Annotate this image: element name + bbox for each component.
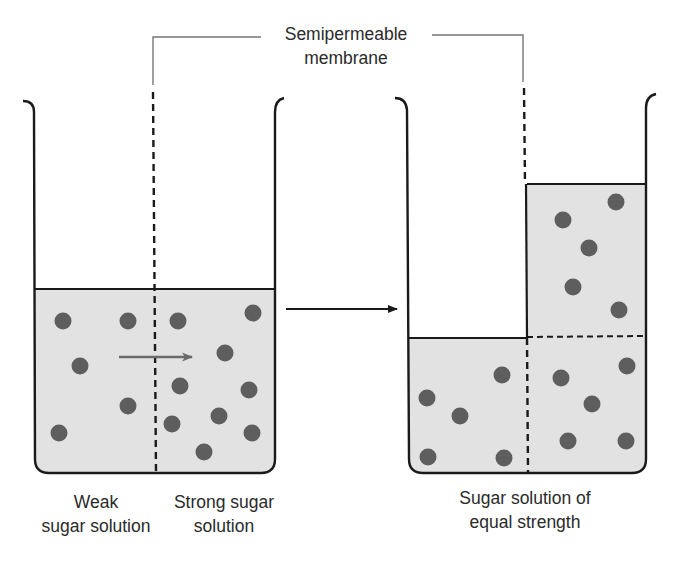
sugar-particle <box>211 408 228 425</box>
membrane-leader-left <box>153 37 261 85</box>
sugar-particle <box>452 408 469 425</box>
sugar-particle <box>217 345 234 362</box>
sugar-particle <box>245 305 262 322</box>
sugar-particle <box>618 433 635 450</box>
sugar-particle <box>170 313 187 330</box>
sugar-particle <box>51 425 68 442</box>
osmosis-diagram <box>0 0 682 566</box>
left-beaker <box>23 92 284 473</box>
sugar-particle <box>419 390 436 407</box>
sugar-particle <box>55 313 72 330</box>
weak-solution-label: Weak sugar solution <box>26 490 166 538</box>
sugar-particle <box>120 313 137 330</box>
sugar-particle <box>172 378 189 395</box>
right-beaker <box>395 88 656 473</box>
membrane-dashed-upper <box>524 88 525 184</box>
equal-strength-label: Sugar solution of equal strength <box>437 486 613 534</box>
sugar-particle <box>196 444 213 461</box>
sugar-particle <box>120 398 137 415</box>
sugar-particle <box>72 358 89 375</box>
sugar-particle <box>494 367 511 384</box>
sugar-particle <box>560 433 577 450</box>
membrane-label: Semipermeable membrane <box>246 22 446 70</box>
sugar-particle <box>581 240 598 257</box>
sugar-particle <box>496 450 513 467</box>
sugar-particle <box>553 370 570 387</box>
sugar-particle <box>619 358 636 375</box>
membrane-solid-segment <box>526 184 527 338</box>
strong-solution-label: Strong sugar solution <box>158 490 290 538</box>
sugar-particle <box>244 425 261 442</box>
sugar-particle <box>608 194 625 211</box>
sugar-particle <box>164 416 181 433</box>
right-right-solution-fill <box>527 184 646 473</box>
sugar-particle <box>241 382 258 399</box>
sugar-particle <box>420 449 437 466</box>
sugar-particle <box>584 396 601 413</box>
sugar-particle <box>555 212 572 229</box>
sugar-particle <box>565 279 582 296</box>
sugar-particle <box>611 302 628 319</box>
